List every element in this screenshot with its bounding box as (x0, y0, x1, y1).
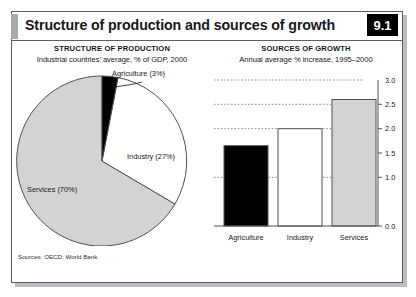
bar-chart: 3.0 2.5 2.0 1.5 1.0 0.0 Agriculture Indu… (212, 68, 402, 248)
pie-chart-svg (14, 68, 210, 246)
y-axis-ticks (378, 104, 382, 177)
left-panel-title: STRUCTURE OF PRODUCTION (14, 44, 210, 53)
left-panel-header: STRUCTURE OF PRODUCTION Industrial count… (14, 44, 210, 64)
y-tick-3-0: 3.0 (385, 76, 395, 85)
pie-chart: Agriculture (3%) Industry (27%) Services… (14, 68, 210, 246)
y-tick-labels: 3.0 2.5 2.0 1.5 1.0 0.0 (385, 76, 395, 231)
y-tick-2-0: 2.0 (385, 124, 395, 133)
title-divider (11, 40, 403, 41)
x-label-services: Services (340, 233, 369, 242)
bar-agriculture (224, 146, 268, 226)
figure-number-badge: 9.1 (367, 14, 398, 36)
title-accent-bar (11, 14, 18, 39)
right-panel-title: SOURCES OF GROWTH (212, 44, 400, 53)
figure-page: Structure of production and sources of g… (0, 0, 416, 297)
y-tick-1-5: 1.5 (385, 149, 395, 158)
x-label-industry: Industry (287, 233, 314, 242)
pie-label-agriculture: Agriculture (3%) (112, 69, 165, 78)
left-panel-subtitle: Industrial countries' average, % of GDP,… (14, 55, 210, 64)
bar-services (332, 100, 376, 227)
bar-industry (278, 129, 322, 226)
x-category-labels: Agriculture Industry Services (228, 233, 368, 242)
right-panel-header: SOURCES OF GROWTH Annual average % incre… (212, 44, 400, 64)
y-tick-2-5: 2.5 (385, 100, 395, 109)
y-tick-1-0: 1.0 (385, 173, 395, 182)
figure-titlebar: Structure of production and sources of g… (11, 11, 403, 41)
pie-label-industry: Industry (27%) (127, 152, 175, 161)
figure-title: Structure of production and sources of g… (25, 17, 335, 33)
bar-chart-svg: 3.0 2.5 2.0 1.5 1.0 0.0 Agriculture Indu… (212, 68, 402, 248)
right-panel-subtitle: Annual average % increase, 1995–2000 (212, 55, 400, 64)
y-tick-0-0: 0.0 (385, 222, 395, 231)
x-label-agriculture: Agriculture (228, 233, 263, 242)
pie-label-services: Services (70%) (27, 185, 77, 194)
source-note: Sources: OECD; World Bank (18, 253, 97, 260)
